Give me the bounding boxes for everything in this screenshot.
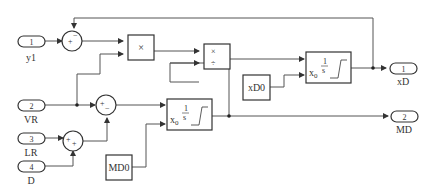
multiply-icon: × <box>138 42 144 53</box>
integrator-denominator: s <box>183 113 186 122</box>
plus-sign: + <box>66 135 71 144</box>
minus-sign: − <box>105 104 110 113</box>
sum-block-3[interactable]: + + <box>63 131 83 151</box>
inport-lr[interactable]: 3 LR <box>18 133 45 158</box>
block-diagram: 1 y1 2 VR 3 LR 4 D 1 xD 2 MD + − + − + <box>0 0 430 196</box>
outport-xd[interactable]: 1 xD <box>390 63 417 87</box>
outport-label: xD <box>397 76 409 87</box>
inport-y1[interactable]: 1 y1 <box>18 36 45 63</box>
inport-number: 2 <box>30 102 34 111</box>
constant-label: xD0 <box>248 82 265 93</box>
junction-dot <box>75 103 79 107</box>
limited-integrator-2[interactable]: x0 1 s <box>167 99 212 130</box>
inport-vr[interactable]: 2 VR <box>18 100 45 125</box>
integrator-numerator: 1 <box>184 104 188 113</box>
signal-wires <box>45 18 388 167</box>
inport-label: LR <box>25 147 38 158</box>
inport-number: 3 <box>30 135 34 144</box>
plus-sign: + <box>72 139 77 148</box>
minus-sign: − <box>73 31 78 40</box>
divide-icon: ÷ <box>211 59 216 68</box>
inport-number: 1 <box>30 38 34 47</box>
constant-xd0[interactable]: xD0 <box>243 75 270 100</box>
integrator-denominator: s <box>322 66 325 75</box>
product-block-2[interactable]: × ÷ <box>204 44 230 69</box>
outport-label: MD <box>396 124 412 135</box>
constant-md0[interactable]: MD0 <box>106 155 132 180</box>
inport-label: D <box>27 175 34 186</box>
junction-dot <box>371 66 375 70</box>
inport-d[interactable]: 4 D <box>18 161 45 186</box>
multiply-icon: × <box>211 47 216 56</box>
integrator-numerator: 1 <box>323 57 327 66</box>
sum-block-1[interactable]: + − <box>62 31 82 51</box>
outport-number: 1 <box>402 65 406 74</box>
outport-number: 2 <box>403 113 407 122</box>
inport-number: 4 <box>30 163 34 172</box>
inport-label: y1 <box>26 52 36 63</box>
limited-integrator-1[interactable]: x0 1 s <box>306 52 351 83</box>
junction-dot <box>227 114 231 118</box>
outport-md[interactable]: 2 MD <box>391 111 418 135</box>
inport-label: VR <box>24 114 38 125</box>
product-block-1[interactable]: × <box>128 35 154 60</box>
sum-block-2[interactable]: + − <box>96 95 116 115</box>
constant-label: MD0 <box>108 162 129 173</box>
